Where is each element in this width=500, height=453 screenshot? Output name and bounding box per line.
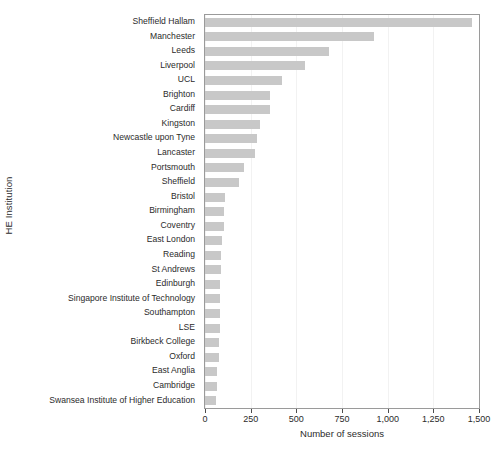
bar bbox=[205, 163, 244, 172]
bar bbox=[205, 309, 220, 318]
bar bbox=[205, 324, 220, 333]
y-tick-label: Newcastle upon Tyne bbox=[113, 133, 195, 142]
bar-row bbox=[205, 379, 479, 394]
y-tick-label: East London bbox=[147, 235, 195, 244]
x-tick-mark bbox=[251, 409, 252, 413]
y-tick-row: Lancaster bbox=[14, 145, 200, 160]
y-tick-label: Oxford bbox=[169, 352, 195, 361]
bar-row bbox=[205, 365, 479, 380]
y-tick-label: Sheffield Hallam bbox=[133, 17, 195, 26]
bar-row bbox=[205, 44, 479, 59]
y-tick-row: Birmingham bbox=[14, 203, 200, 218]
bar-row bbox=[205, 88, 479, 103]
y-tick-label: Cambridge bbox=[153, 381, 195, 390]
bar bbox=[205, 193, 225, 202]
y-tick-label: LSE bbox=[179, 323, 195, 332]
x-tick-mark bbox=[205, 409, 206, 413]
y-tick-label: Birmingham bbox=[149, 206, 195, 215]
bar bbox=[205, 222, 224, 231]
x-tick-mark bbox=[388, 409, 389, 413]
y-tick-row: Oxford bbox=[14, 349, 200, 364]
y-tick-row: Bristol bbox=[14, 189, 200, 204]
x-tick-mark bbox=[342, 409, 343, 413]
y-tick-row: Newcastle upon Tyne bbox=[14, 131, 200, 146]
bar bbox=[205, 382, 217, 391]
y-tick-row: Kingston bbox=[14, 116, 200, 131]
bar bbox=[205, 353, 219, 362]
bar-chart: HE Institution Sheffield HallamMancheste… bbox=[0, 0, 500, 453]
bar bbox=[205, 367, 217, 376]
bar bbox=[205, 207, 224, 216]
bar bbox=[205, 105, 270, 114]
y-tick-label: Kingston bbox=[162, 119, 195, 128]
bar-row bbox=[205, 30, 479, 45]
y-tick-label: Manchester bbox=[150, 32, 195, 41]
y-tick-label: Brighton bbox=[163, 90, 195, 99]
bar-row bbox=[205, 146, 479, 161]
bar-row bbox=[205, 233, 479, 248]
bar bbox=[205, 18, 472, 27]
y-tick-row: Singapore Institute of Technology bbox=[14, 291, 200, 306]
x-tick-mark bbox=[296, 409, 297, 413]
y-tick-row: Cambridge bbox=[14, 378, 200, 393]
bar bbox=[205, 294, 220, 303]
y-axis-tick-labels: Sheffield HallamManchesterLeedsLiverpool… bbox=[14, 14, 200, 407]
bar-row bbox=[205, 248, 479, 263]
y-tick-label: Swansea Institute of Higher Education bbox=[49, 396, 195, 405]
y-tick-label: Portsmouth bbox=[151, 163, 195, 172]
bar bbox=[205, 47, 329, 56]
y-tick-label: Leeds bbox=[172, 46, 195, 55]
bar bbox=[205, 61, 305, 70]
bar bbox=[205, 76, 282, 85]
y-tick-label: East Anglia bbox=[152, 366, 195, 375]
bar bbox=[205, 236, 222, 245]
y-tick-row: East London bbox=[14, 232, 200, 247]
x-tick-label: 750 bbox=[334, 414, 349, 424]
bar bbox=[205, 120, 260, 129]
gridline bbox=[479, 15, 480, 408]
bar-row bbox=[205, 102, 479, 117]
y-tick-label: Liverpool bbox=[160, 61, 195, 70]
bar-row bbox=[205, 350, 479, 365]
y-tick-label: Bristol bbox=[171, 192, 195, 201]
y-tick-row: Leeds bbox=[14, 43, 200, 58]
bar bbox=[205, 149, 255, 158]
y-tick-row: LSE bbox=[14, 320, 200, 335]
bar bbox=[205, 265, 221, 274]
bar-row bbox=[205, 321, 479, 336]
x-tick-label: 1,000 bbox=[376, 414, 399, 424]
bar bbox=[205, 338, 219, 347]
bar-row bbox=[205, 132, 479, 147]
bar-row bbox=[205, 263, 479, 278]
y-tick-row: East Anglia bbox=[14, 364, 200, 379]
x-tick-label: 500 bbox=[289, 414, 304, 424]
y-tick-label: St Andrews bbox=[152, 265, 195, 274]
y-tick-label: Singapore Institute of Technology bbox=[68, 294, 195, 303]
x-tick-label: 0 bbox=[202, 414, 207, 424]
y-tick-row: Reading bbox=[14, 247, 200, 262]
y-tick-label: Edinburgh bbox=[156, 279, 195, 288]
y-tick-row: Cardiff bbox=[14, 101, 200, 116]
bar-row bbox=[205, 292, 479, 307]
bar-row bbox=[205, 394, 479, 409]
bar bbox=[205, 32, 374, 41]
bar-row bbox=[205, 15, 479, 30]
y-tick-label: Coventry bbox=[161, 221, 195, 230]
bar-row bbox=[205, 117, 479, 132]
bar bbox=[205, 91, 270, 100]
y-tick-label: UCL bbox=[178, 75, 195, 84]
bar-row bbox=[205, 204, 479, 219]
bar-row bbox=[205, 190, 479, 205]
x-tick-mark bbox=[433, 409, 434, 413]
y-tick-label: Birkbeck College bbox=[131, 337, 195, 346]
bar-row bbox=[205, 161, 479, 176]
y-tick-label: Southampton bbox=[144, 308, 195, 317]
bar bbox=[205, 280, 220, 289]
y-tick-row: Southampton bbox=[14, 305, 200, 320]
y-tick-label: Cardiff bbox=[170, 104, 195, 113]
bar-row bbox=[205, 219, 479, 234]
y-tick-label: Lancaster bbox=[157, 148, 195, 157]
y-tick-row: Birkbeck College bbox=[14, 334, 200, 349]
y-tick-row: Sheffield Hallam bbox=[14, 14, 200, 29]
y-tick-row: Sheffield bbox=[14, 174, 200, 189]
